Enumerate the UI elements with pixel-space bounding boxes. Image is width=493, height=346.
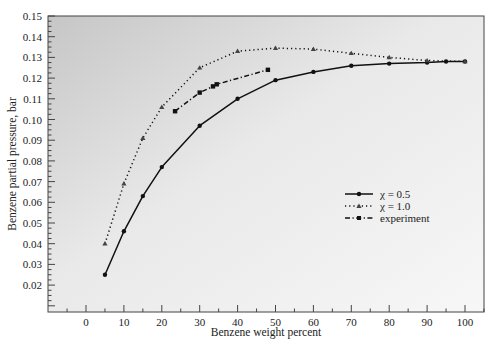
data-point (141, 194, 145, 198)
data-point (198, 124, 202, 128)
circle-marker-icon (357, 192, 361, 196)
y-tick-label: 0.15 (23, 10, 43, 22)
x-tick-label: 70 (346, 316, 358, 328)
square-marker-icon (357, 216, 361, 220)
y-tick-label: 0.05 (23, 217, 43, 229)
x-tick-label: 30 (194, 316, 206, 328)
svg-text:experiment: experiment (380, 212, 429, 224)
chart: 0.020.030.040.050.060.070.080.090.100.11… (0, 0, 493, 346)
y-tick-label: 0.06 (23, 196, 43, 208)
x-tick-label: 20 (156, 316, 168, 328)
x-tick-label: 0 (83, 316, 89, 328)
y-tick-labels: 0.020.030.040.050.060.070.080.090.100.11… (23, 10, 43, 291)
y-tick-label: 0.14 (23, 31, 43, 43)
y-tick-label: 0.08 (23, 155, 43, 167)
y-tick-label: 0.03 (23, 258, 43, 270)
data-point (387, 61, 391, 65)
y-tick-label: 0.09 (23, 134, 43, 146)
data-point (198, 90, 202, 94)
data-point (215, 82, 219, 86)
x-axis-title: Benzene weight percent (211, 326, 322, 339)
y-tick-label: 0.11 (23, 93, 42, 105)
data-point (211, 84, 215, 88)
y-axis-title: Benzene partial pressure, bar (6, 97, 19, 231)
data-point (235, 97, 239, 101)
data-point (311, 70, 315, 74)
data-point (173, 109, 177, 113)
svg-text:χ = 0.5: χ = 0.5 (379, 188, 411, 200)
data-point (122, 229, 126, 233)
y-tick-label: 0.07 (23, 176, 43, 188)
y-tick-label: 0.04 (23, 238, 43, 250)
plot-area (48, 16, 484, 312)
x-tick-label: 100 (457, 316, 474, 328)
data-point (103, 273, 107, 277)
svg-text:χ = 1.0: χ = 1.0 (379, 200, 411, 212)
data-point (273, 78, 277, 82)
y-tick-label: 0.02 (23, 279, 42, 291)
x-tick-label: 80 (384, 316, 396, 328)
data-point (160, 165, 164, 169)
y-tick-label: 0.13 (23, 51, 43, 63)
x-tick-label: 10 (118, 316, 130, 328)
data-point (349, 63, 353, 67)
y-tick-label: 0.12 (23, 72, 42, 84)
data-point (266, 68, 270, 72)
y-tick-label: 0.10 (23, 114, 43, 126)
x-tick-label: 90 (422, 316, 434, 328)
